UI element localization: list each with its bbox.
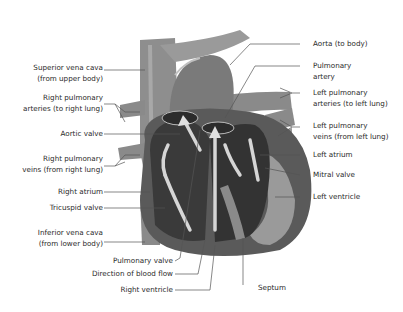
label-line: Mitral valve [313, 170, 355, 181]
label-line: Aorta (to body) [313, 39, 368, 50]
label-right-ventricle: Right ventricle [120, 285, 173, 296]
label-line: Left pulmonary [313, 88, 388, 99]
label-line: veins (from right lung) [22, 165, 103, 176]
label-inferior-vena-cava: Inferior vena cava (from lower body) [38, 228, 103, 249]
label-line: Right ventricle [120, 285, 173, 296]
label-line: Pulmonary [313, 61, 351, 72]
label-line: Aortic valve [60, 129, 103, 140]
label-right-pulmonary-veins: Right pulmonary veins (from right lung) [22, 154, 103, 175]
label-line: Pulmonary valve [113, 256, 173, 267]
label-line: arteries (to left lung) [313, 99, 388, 110]
label-superior-vena-cava: Superior vena cava (from upper body) [33, 63, 103, 84]
label-line: (from upper body) [33, 74, 103, 85]
label-line: Septum [258, 283, 286, 294]
leader-aorta [230, 44, 300, 65]
label-pulmonary-valve: Pulmonary valve [113, 256, 173, 267]
label-left-pulmonary-veins: Left pulmonary veins (from left lung) [313, 121, 388, 142]
label-right-atrium: Right atrium [58, 187, 103, 198]
label-left-atrium: Left atrium [313, 150, 353, 161]
label-left-ventricle: Left ventricle [313, 192, 360, 203]
label-line: Superior vena cava [33, 63, 103, 74]
label-line: Left pulmonary [313, 121, 388, 132]
label-line: Right atrium [58, 187, 103, 198]
label-line: Inferior vena cava [38, 228, 103, 239]
heart-body-shape [140, 109, 311, 257]
label-direction-of-blood-flow: Direction of blood flow [92, 269, 173, 280]
label-line: Left atrium [313, 150, 353, 161]
label-aortic-valve: Aortic valve [60, 129, 103, 140]
label-line: Direction of blood flow [92, 269, 173, 280]
label-tricuspid-valve: Tricuspid valve [50, 203, 103, 214]
label-right-pulmonary-arteries: Right pulmonary arteries (to right lung) [23, 93, 103, 114]
label-line: arteries (to right lung) [23, 104, 103, 115]
label-line: artery [313, 72, 351, 83]
label-pulmonary-artery: Pulmonary artery [313, 61, 351, 82]
label-line: Right pulmonary [22, 154, 103, 165]
label-septum: Septum [258, 283, 286, 294]
label-left-pulmonary-arteries: Left pulmonary arteries (to left lung) [313, 88, 388, 109]
label-line: Right pulmonary [23, 93, 103, 104]
label-line: Left ventricle [313, 192, 360, 203]
label-mitral-valve: Mitral valve [313, 170, 355, 181]
label-line: (from lower body) [38, 239, 103, 250]
label-line: veins (from left lung) [313, 132, 388, 143]
label-aorta: Aorta (to body) [313, 39, 368, 50]
label-line: Tricuspid valve [50, 203, 103, 214]
